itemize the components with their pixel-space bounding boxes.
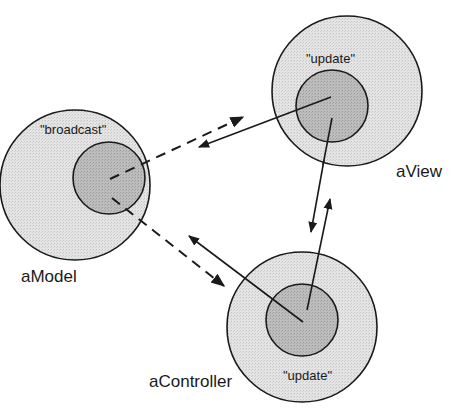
mvc-diagram-canvas <box>0 0 471 413</box>
view-method-label: "update" <box>306 51 355 66</box>
view-name-label: aView <box>396 162 442 182</box>
controller-method-label: "update" <box>283 368 332 383</box>
model-method-label: "broadcast" <box>40 122 106 137</box>
controller-name-label: aController <box>149 372 232 392</box>
view-to-controller-solid-arrow <box>311 160 324 232</box>
model-name-label: aModel <box>21 267 77 287</box>
model-to-controller-dashed-arrow <box>112 198 224 286</box>
controller-inner-circle <box>266 284 338 356</box>
view-object <box>272 16 422 166</box>
model-inner-circle <box>73 142 145 214</box>
